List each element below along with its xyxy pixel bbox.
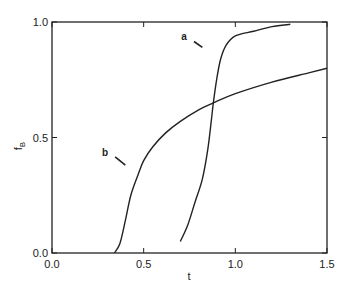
y-tick-label: 1.0 xyxy=(33,16,48,28)
chart: 0.00.51.01.50.00.51.0 ab t fB xyxy=(0,0,342,290)
y-axis-label: fB xyxy=(12,142,27,150)
y-tick-label: 0.0 xyxy=(33,247,48,259)
annotation-arrow-b xyxy=(115,157,125,165)
x-tick-label: 0.0 xyxy=(44,258,59,270)
series-group xyxy=(114,24,327,253)
y-tick-label: 0.5 xyxy=(33,132,48,144)
axis-ticks: 0.00.51.01.50.00.51.0 xyxy=(33,16,335,270)
curve-label-a: a xyxy=(181,31,187,42)
svg-text:fB: fB xyxy=(12,142,27,150)
annotation-arrow-a xyxy=(194,41,202,47)
x-tick-label: 1.0 xyxy=(228,258,243,270)
curve-b xyxy=(114,68,327,253)
annotations: ab xyxy=(102,31,202,165)
x-tick-label: 1.5 xyxy=(319,258,334,270)
curve-label-b: b xyxy=(102,147,108,158)
curve-a xyxy=(180,24,290,241)
x-tick-label: 0.5 xyxy=(136,258,151,270)
x-axis-label: t xyxy=(187,270,190,282)
